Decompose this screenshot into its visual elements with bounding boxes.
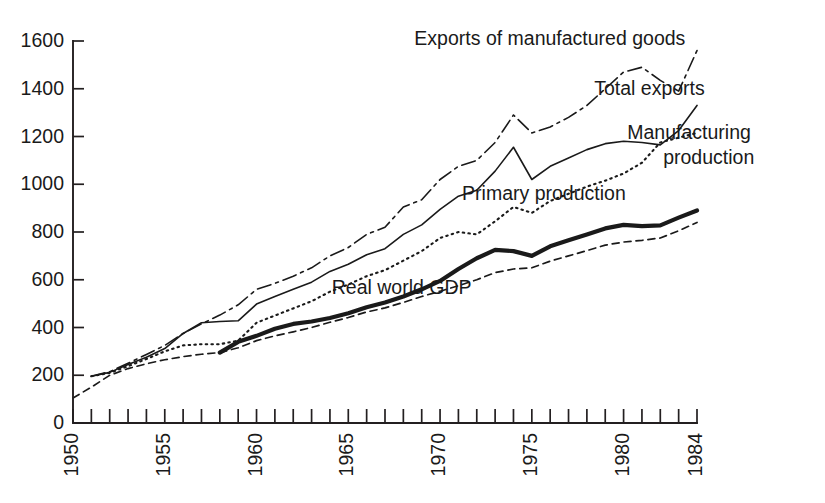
y-axis-tick-label: 400: [31, 316, 64, 338]
series-label-4: Real world GDP: [332, 276, 472, 298]
x-axis-tick-label-group: 1955: [152, 433, 174, 477]
line-chart: 02004006008001000120014001600 1950195519…: [0, 0, 825, 503]
series-line-1: [91, 105, 697, 376]
x-axis-tick-label: 1955: [152, 433, 174, 477]
series-label-3: Primary production: [462, 182, 626, 204]
x-axis-tick-label: 1970: [427, 433, 449, 477]
x-axis-tick-label-group: 1980: [611, 433, 633, 477]
series-line-0: [91, 51, 697, 377]
y-axis-tick-label: 800: [31, 220, 64, 242]
y-axis-tick-label: 1400: [21, 77, 65, 99]
y-axis-tick-label: 1600: [21, 29, 65, 51]
y-axis-tick-label: 600: [31, 268, 64, 290]
x-axis-tick-label-group: 1950: [60, 433, 82, 477]
series-annotations: Exports of manufactured goodsTotal expor…: [332, 27, 754, 298]
y-axis-tick-label: 200: [31, 363, 64, 385]
x-axis-tick-label: 1984: [684, 433, 706, 477]
series-line-2: [91, 133, 697, 376]
series-label-2: production: [663, 146, 754, 168]
x-axis-tick-label: 1965: [335, 433, 357, 477]
x-axis-tick-label: 1980: [611, 433, 633, 477]
chart-container: 02004006008001000120014001600 1950195519…: [0, 0, 825, 503]
y-axis-tick-label: 0: [53, 411, 64, 433]
series-label-1: Total exports: [594, 77, 705, 99]
x-axis-tick-label-group: 1970: [427, 433, 449, 477]
series-label-2: Manufacturing: [627, 121, 751, 143]
series-label-0: Exports of manufactured goods: [414, 27, 685, 49]
x-axis-tick-label: 1975: [519, 433, 541, 477]
y-axis-tick-label: 1200: [21, 125, 65, 147]
x-axis-tick-label-group: 1960: [244, 433, 266, 477]
y-axis-tick-labels: 02004006008001000120014001600: [21, 29, 65, 433]
series-layer: [73, 51, 697, 398]
x-axis-tick-label-group: 1965: [335, 433, 357, 477]
x-axis-tick-label: 1950: [60, 433, 82, 477]
x-axis-tick-labels: 19501955196019651970197519801984: [60, 433, 706, 477]
x-axis-tick-label-group: 1975: [519, 433, 541, 477]
x-axis-tick-label: 1960: [244, 433, 266, 477]
x-axis-tick-label-group: 1984: [684, 433, 706, 477]
y-axis-tick-label: 1000: [21, 172, 65, 194]
